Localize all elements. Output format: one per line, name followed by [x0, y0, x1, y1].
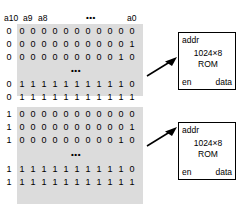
address-bit: 0 — [17, 38, 27, 51]
address-bit: 0 — [28, 108, 38, 121]
address-bit: 1 — [61, 78, 71, 91]
ellipsis-glyph: ••• — [71, 66, 81, 75]
address-bit: 0 — [83, 51, 93, 64]
address-header-a0: a0 — [127, 12, 136, 24]
address-bit: 0 — [39, 25, 49, 38]
address-bit: 0 — [127, 134, 137, 147]
address-bit: 0 — [50, 108, 60, 121]
address-bit: 0 — [105, 108, 115, 121]
address-bit: 1 — [28, 91, 38, 104]
address-bit: 1 — [116, 78, 126, 91]
address-bit: 0 — [50, 51, 60, 64]
address-bit: 0 — [83, 38, 93, 51]
address-bit: 0 — [39, 134, 49, 147]
address-bit: 1 — [105, 176, 115, 189]
address-row: 100000000000 — [0, 108, 146, 121]
address-bit: 0 — [17, 108, 27, 121]
address-header-a8: a8 — [38, 12, 47, 24]
address-bit: 1 — [17, 78, 27, 91]
address-bit: 0 — [50, 121, 60, 134]
address-bit: 1 — [72, 78, 82, 91]
address-bit: 0 — [116, 38, 126, 51]
address-bit: 0 — [17, 51, 27, 64]
address-bit: 0 — [105, 134, 115, 147]
arrow-to-rom-1-icon — [146, 55, 180, 79]
address-bit: 0 — [50, 38, 60, 51]
address-bit: 1 — [17, 176, 27, 189]
address-bit: 0 — [94, 108, 104, 121]
address-bit: 1 — [61, 163, 71, 176]
address-row: 100000000010 — [0, 134, 146, 147]
address-bit: 0 — [72, 108, 82, 121]
address-bit: 0 — [28, 38, 38, 51]
address-bit: 1 — [105, 78, 115, 91]
address-bit: 0 — [4, 78, 14, 91]
address-bit: 1 — [39, 163, 49, 176]
address-bit: 0 — [72, 134, 82, 147]
address-row: 100000000001 — [0, 121, 146, 134]
address-bit: 1 — [17, 163, 27, 176]
address-bit: 0 — [72, 38, 82, 51]
address-bit: 0 — [127, 78, 137, 91]
address-bit: 1 — [50, 78, 60, 91]
address-bit: 0 — [28, 51, 38, 64]
address-bit: 0 — [105, 38, 115, 51]
address-row: 111111111111 — [0, 176, 146, 189]
address-bit: 1 — [127, 121, 137, 134]
address-bit: 1 — [83, 163, 93, 176]
address-bit: 1 — [94, 91, 104, 104]
rom-2-size-label: 1024×8 — [179, 138, 237, 149]
address-bit: 1 — [94, 78, 104, 91]
address-bit: 0 — [116, 121, 126, 134]
address-header-ellipsis: ••• — [86, 12, 96, 24]
address-bit: 1 — [28, 176, 38, 189]
address-bit-header: a10 a9 a8 ••• a0 — [0, 12, 146, 24]
address-bit: 0 — [28, 121, 38, 134]
address-bit: 0 — [17, 121, 27, 134]
address-bit: 0 — [83, 134, 93, 147]
rom-1-en-label: en — [182, 77, 191, 88]
address-bit: 1 — [83, 176, 93, 189]
address-bit: 1 — [94, 163, 104, 176]
rom-device-1[interactable]: addr 1024×8 ROM en data — [178, 32, 236, 90]
rom-2-en-label: en — [182, 167, 191, 178]
address-bit: 1 — [4, 121, 14, 134]
address-bit: 1 — [39, 78, 49, 91]
rom-1-size-label: 1024×8 — [179, 48, 237, 59]
address-bit: 1 — [116, 163, 126, 176]
address-bit: 0 — [94, 121, 104, 134]
arrow-to-rom-2-icon — [146, 125, 180, 149]
rom-device-2[interactable]: addr 1024×8 ROM en data — [178, 122, 236, 180]
address-bit: 0 — [39, 51, 49, 64]
address-bit: 0 — [4, 51, 14, 64]
address-bit: 1 — [4, 163, 14, 176]
address-header-a10: a10 — [4, 12, 18, 24]
address-row: 000000000000 — [0, 25, 146, 38]
address-bit: 1 — [4, 134, 14, 147]
address-bit: 1 — [28, 78, 38, 91]
address-bit: 1 — [116, 51, 126, 64]
address-bit: 0 — [50, 134, 60, 147]
address-bit: 0 — [39, 121, 49, 134]
address-bit: 0 — [94, 25, 104, 38]
address-bit: 0 — [105, 121, 115, 134]
address-bit: 0 — [17, 134, 27, 147]
address-rows-ellipsis-block-1: ••• — [0, 65, 146, 76]
address-bit: 1 — [17, 91, 27, 104]
address-table: a10 a9 a8 ••• a0 00000000000000000000000… — [0, 0, 146, 212]
address-bit: 0 — [105, 25, 115, 38]
address-bit: 1 — [83, 78, 93, 91]
address-bit: 1 — [72, 176, 82, 189]
address-bit: 0 — [83, 121, 93, 134]
address-bit: 0 — [127, 51, 137, 64]
address-bit: 1 — [39, 91, 49, 104]
address-bit: 1 — [61, 176, 71, 189]
address-bit: 1 — [127, 176, 137, 189]
address-bit: 0 — [4, 91, 14, 104]
address-bit: 1 — [28, 163, 38, 176]
address-bit: 0 — [72, 121, 82, 134]
address-bit: 0 — [94, 134, 104, 147]
address-bit: 1 — [127, 38, 137, 51]
address-bit: 0 — [4, 25, 14, 38]
address-row: 111111111110 — [0, 163, 146, 176]
